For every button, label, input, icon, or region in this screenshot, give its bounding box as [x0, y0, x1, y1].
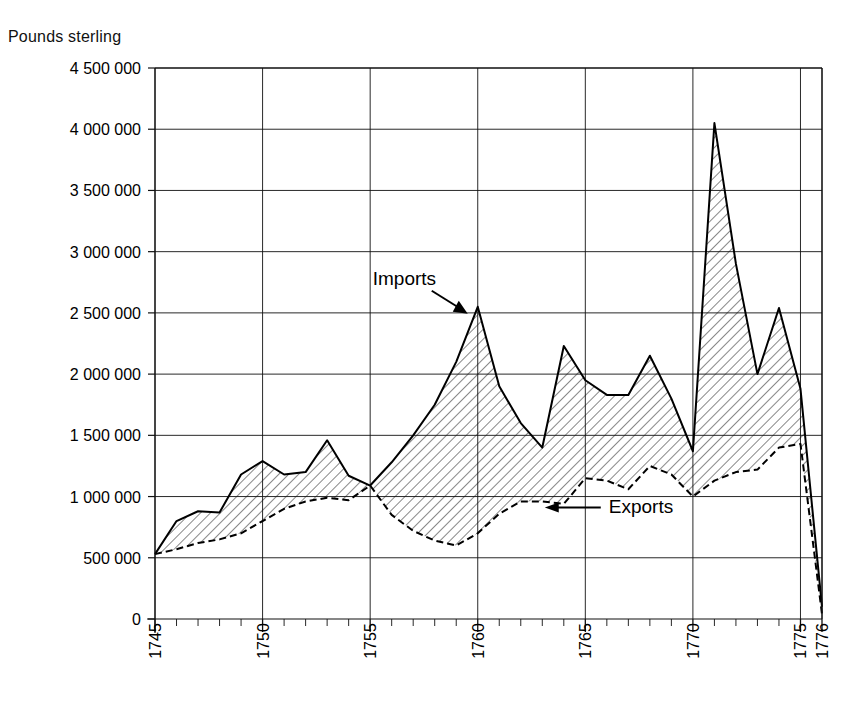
y-tick-label: 4 500 000: [70, 60, 141, 77]
exports-annotation-label: Exports: [609, 496, 673, 517]
chart-container: 4 500 0004 000 0003 500 0003 000 0002 50…: [0, 0, 861, 701]
import-export-gap-area: [155, 123, 822, 614]
y-tick-label: 1 000 000: [70, 489, 141, 506]
y-tick-label: 4 000 000: [70, 121, 141, 138]
y-tick-label: 2 000 000: [70, 366, 141, 383]
y-tick-label: 3 500 000: [70, 182, 141, 199]
x-axis-ticks: 17451750175517601765177017751776: [147, 619, 831, 659]
x-tick-label: 1755: [362, 623, 379, 659]
y-tick-label: 3 000 000: [70, 244, 141, 261]
y-tick-label: 500 000: [83, 550, 141, 567]
x-tick-label: 1775: [792, 623, 809, 659]
imports-annotation-label: Imports: [373, 268, 436, 289]
y-tick-label: 1 500 000: [70, 427, 141, 444]
x-tick-label: 1776: [814, 623, 831, 659]
trade-gap-band: [155, 123, 822, 614]
exports-arrowhead: [545, 502, 559, 512]
x-tick-label: 1750: [255, 623, 272, 659]
y-tick-label: 2 500 000: [70, 305, 141, 322]
x-tick-label: 1765: [577, 623, 594, 659]
x-tick-label: 1770: [685, 623, 702, 659]
y-axis-ticks: 4 500 0004 000 0003 500 0003 000 0002 50…: [70, 60, 155, 628]
x-tick-label: 1745: [147, 623, 164, 659]
trade-area-chart: 4 500 0004 000 0003 500 0003 000 0002 50…: [0, 0, 861, 701]
y-tick-label: 0: [132, 611, 141, 628]
x-tick-label: 1760: [470, 623, 487, 659]
imports-arrowhead: [453, 301, 468, 314]
